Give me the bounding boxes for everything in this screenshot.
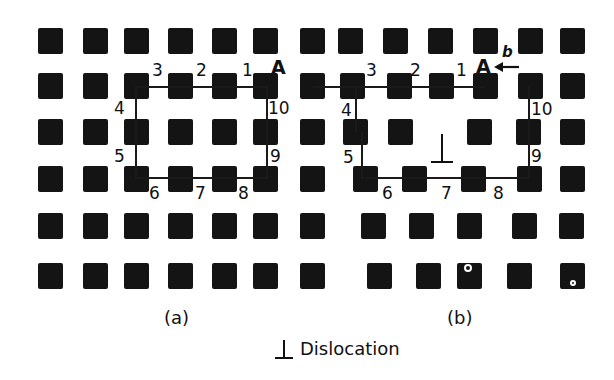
step-label-6: 6	[382, 185, 393, 202]
atom	[467, 119, 492, 145]
atom	[402, 166, 427, 192]
atom	[428, 28, 453, 54]
atom	[383, 28, 408, 54]
circuit-right-segment	[528, 86, 530, 179]
atom	[83, 73, 108, 99]
circuit-left-lower-segment	[361, 132, 363, 179]
atom-mark	[570, 280, 576, 286]
step-label-5: 5	[343, 149, 354, 166]
atom	[300, 263, 325, 289]
atom	[388, 119, 413, 145]
atom	[518, 73, 543, 99]
atom	[38, 119, 63, 145]
step-label-4: 4	[114, 100, 125, 117]
atom	[560, 166, 585, 192]
circuit-top-segment	[313, 86, 485, 88]
burgers-vector-label: b	[502, 45, 513, 60]
atom	[38, 213, 63, 239]
step-label-2: 2	[196, 62, 207, 79]
step-label-3: 3	[152, 62, 163, 79]
step-label-4: 4	[341, 102, 352, 119]
legend-text: Dislocation	[300, 339, 400, 359]
burgers-vector-arrow-icon	[494, 61, 520, 73]
atom	[38, 73, 63, 99]
atom	[300, 166, 325, 192]
atom	[38, 28, 63, 54]
atom-mark	[464, 264, 472, 272]
atom	[83, 166, 108, 192]
atom	[124, 263, 149, 289]
circuit-left-upper-segment	[355, 86, 357, 132]
atom	[38, 166, 63, 192]
atom	[560, 73, 585, 99]
atom	[124, 28, 149, 54]
step-label-2: 2	[410, 62, 421, 79]
atom	[507, 263, 532, 289]
atom	[253, 213, 278, 239]
atom	[300, 119, 325, 145]
start-label-a: A	[271, 58, 286, 77]
panel-b-caption: (b)	[447, 308, 472, 328]
atom	[83, 28, 108, 54]
step-label-9: 9	[270, 148, 281, 165]
atom	[212, 213, 237, 239]
burgers-circuit-diagram: A 1 2 3 4 5 6 7 8 9 10 (a) A b 1 2	[0, 0, 614, 380]
step-label-7: 7	[195, 185, 206, 202]
atom	[253, 28, 278, 54]
atom	[83, 213, 108, 239]
atom	[361, 213, 386, 239]
step-label-10: 10	[531, 101, 553, 118]
dislocation-symbol	[431, 134, 453, 164]
circuit-left-segment	[135, 86, 137, 179]
dislocation-legend-symbol	[275, 340, 293, 360]
atom	[367, 263, 392, 289]
step-label-8: 8	[238, 185, 249, 202]
step-label-3: 3	[366, 62, 377, 79]
atom	[168, 263, 193, 289]
atom	[212, 263, 237, 289]
atom	[300, 28, 325, 54]
circuit-bottom-segment	[362, 177, 530, 179]
atom	[457, 213, 482, 239]
atom	[409, 213, 434, 239]
atom	[83, 263, 108, 289]
atom	[518, 28, 543, 54]
atom	[253, 263, 278, 289]
circuit-bottom-segment	[136, 177, 268, 179]
atom	[124, 213, 149, 239]
atom	[512, 213, 537, 239]
atom	[168, 119, 193, 145]
circuit-top-segment	[136, 86, 268, 88]
atom	[300, 213, 325, 239]
step-label-10: 10	[268, 100, 290, 117]
atom	[353, 166, 378, 192]
atom	[212, 166, 237, 192]
atom	[473, 28, 498, 54]
atom	[38, 263, 63, 289]
step-label-7: 7	[441, 185, 452, 202]
step-label-9: 9	[531, 148, 542, 165]
atom	[212, 28, 237, 54]
atom	[168, 28, 193, 54]
atom	[338, 28, 363, 54]
atom	[168, 166, 193, 192]
panel-a-caption: (a)	[164, 308, 189, 328]
step-label-6: 6	[149, 185, 160, 202]
step-label-8: 8	[493, 185, 504, 202]
start-label-b: A	[476, 57, 491, 76]
step-label-1: 1	[456, 62, 467, 79]
step-label-1: 1	[242, 62, 253, 79]
atom	[461, 166, 486, 192]
step-label-5: 5	[114, 148, 125, 165]
atom	[560, 28, 585, 54]
atom	[560, 119, 585, 145]
atom	[83, 119, 108, 145]
atom	[168, 213, 193, 239]
atom	[212, 119, 237, 145]
atom	[416, 263, 441, 289]
atom	[559, 213, 584, 239]
